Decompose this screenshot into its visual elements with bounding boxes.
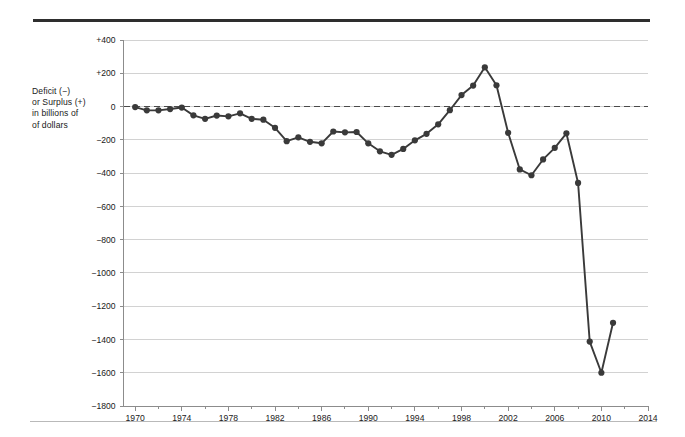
data-point-marker <box>423 131 429 137</box>
data-point-marker <box>575 180 581 186</box>
series-line <box>135 67 613 372</box>
data-point-marker <box>377 148 383 154</box>
x-axis-tick-label: 1994 <box>405 413 424 423</box>
data-point-marker <box>330 128 336 134</box>
plot-area: +400+2000−200−400−600−800−1000−1200−1400… <box>0 0 685 437</box>
data-point-marker <box>272 125 278 131</box>
x-axis-tick-label: 1974 <box>172 413 191 423</box>
data-point-marker <box>342 129 348 135</box>
data-point-marker <box>132 104 138 110</box>
data-point-marker <box>482 64 488 70</box>
data-point-marker <box>144 107 150 113</box>
data-point-marker <box>214 112 220 118</box>
x-axis-tick-label: 1998 <box>452 413 471 423</box>
data-point-marker <box>470 82 476 88</box>
data-point-marker <box>354 129 360 135</box>
data-point-marker <box>528 172 534 178</box>
x-axis-tick-label: 1970 <box>126 413 145 423</box>
y-axis-tick-label: −200 <box>96 135 116 145</box>
y-axis-tick-label: −600 <box>96 202 116 212</box>
data-point-marker <box>295 134 301 140</box>
x-axis-tick-label: 2002 <box>499 413 518 423</box>
data-point-marker <box>237 110 243 116</box>
data-point-marker <box>167 106 173 112</box>
data-point-marker <box>260 117 266 123</box>
x-axis-tick-label: 2006 <box>545 413 564 423</box>
data-point-marker <box>155 107 161 113</box>
x-axis-tick-label: 2014 <box>638 413 657 423</box>
data-point-marker <box>249 116 255 122</box>
data-point-marker <box>400 146 406 152</box>
x-axis-tick-label: 1990 <box>359 413 378 423</box>
y-axis-tick-label: +200 <box>96 68 116 78</box>
data-point-marker <box>307 139 313 145</box>
data-point-marker <box>190 112 196 118</box>
data-point-marker <box>225 113 231 119</box>
data-point-marker <box>610 320 616 326</box>
data-point-marker <box>179 104 185 110</box>
x-axis-tick-label: 1978 <box>219 413 238 423</box>
data-point-marker <box>493 82 499 88</box>
data-point-marker <box>598 370 604 376</box>
y-axis-tick-label: −1000 <box>91 268 115 278</box>
y-axis-tick-label: −1400 <box>91 335 115 345</box>
data-point-marker <box>435 121 441 127</box>
y-axis-tick-label: −400 <box>96 168 116 178</box>
x-axis-tick-label: 1986 <box>312 413 331 423</box>
data-point-marker <box>540 156 546 162</box>
data-point-marker <box>202 116 208 122</box>
data-point-marker <box>412 137 418 143</box>
data-point-marker <box>563 130 569 136</box>
data-point-marker <box>447 107 453 113</box>
data-point-marker <box>517 166 523 172</box>
data-point-marker <box>284 138 290 144</box>
data-point-marker <box>552 145 558 151</box>
data-point-marker <box>319 140 325 146</box>
y-axis-tick-label: +400 <box>96 35 116 45</box>
x-axis-tick-label: 2010 <box>592 413 611 423</box>
y-axis-tick-label: −800 <box>96 235 116 245</box>
data-point-marker <box>505 130 511 136</box>
data-point-marker <box>388 152 394 158</box>
data-point-marker <box>365 140 371 146</box>
y-axis-tick-label: −1800 <box>91 401 115 411</box>
y-axis-tick-label: −1200 <box>91 301 115 311</box>
chart-figure: Deficit (−) or Surplus (+) in billions o… <box>0 0 685 437</box>
y-axis-tick-label: −1600 <box>91 368 115 378</box>
data-point-marker <box>587 339 593 345</box>
x-axis-tick-label: 1982 <box>265 413 284 423</box>
y-axis-tick-label: 0 <box>111 102 116 112</box>
data-point-marker <box>458 92 464 98</box>
